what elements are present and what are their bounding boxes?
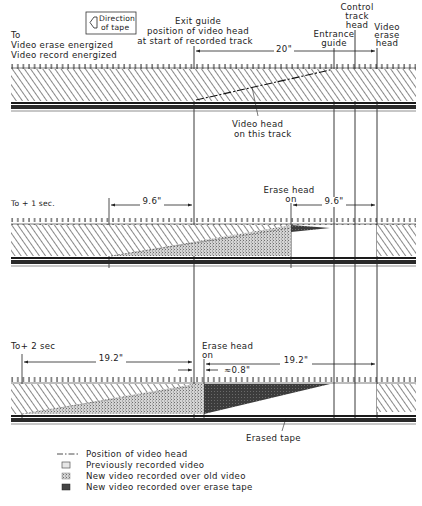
legend-label-0: Position of video head [86, 449, 187, 459]
control-track-label-3: head [346, 20, 369, 30]
t2-dim-small-label: ≈0.8" [224, 365, 250, 375]
legend: Position of video head Previously record… [57, 449, 253, 492]
tape-recording-diagram: Direction of tape To Video erase energiz… [0, 0, 422, 506]
t1-dim-left-label: 9.6" [143, 196, 162, 206]
video-head-callout-2: on this track [234, 129, 292, 139]
t2-dim-left-label: 19.2" [99, 353, 124, 363]
t1-previously-recorded-right [377, 225, 416, 256]
to-label: To [10, 30, 21, 40]
video-erase-head-label-3: head [376, 38, 399, 48]
legend-previously-recorded-swatch [62, 462, 70, 468]
direction-label-1: Direction [99, 14, 135, 23]
legend-label-3: New video recorded over erase tape [86, 482, 253, 492]
t1-dim-right-label: 9.6" [325, 196, 344, 206]
t2-erase-head-on-label: on [202, 350, 213, 360]
legend-new-over-old-swatch [62, 473, 70, 479]
exit-guide-start-label: at start of recorded track [137, 36, 253, 46]
dimension-20-label: 20" [276, 44, 292, 54]
exit-guide-label: Exit guide [175, 16, 221, 26]
video-erase-energized-label: Video erase energized [11, 40, 113, 50]
video-record-energized-label: Video record energized [11, 50, 117, 60]
control-track-band [11, 105, 416, 109]
erased-tape-label: Erased tape [246, 433, 301, 443]
t1-new-over-erase-region [291, 225, 330, 232]
t1-erase-head-on-label: on [285, 194, 296, 204]
t2-dim-right-label: 19.2" [284, 355, 309, 365]
t2-time-label: To+ 2 sec [10, 341, 55, 351]
direction-label-2: of tape [101, 23, 129, 32]
t2-previously-recorded-right [377, 384, 416, 412]
direction-of-tape-box: Direction of tape [86, 12, 136, 34]
legend-label-1: Previously recorded video [86, 460, 204, 470]
t1-time-label: To + 1 sec. [10, 199, 55, 208]
direction-arrow-icon [90, 17, 97, 28]
video-head-callout-1: Video head [232, 119, 283, 129]
t2-new-over-erase-region [204, 384, 330, 414]
legend-label-2: New video recorded over old video [86, 471, 246, 481]
entrance-guide-label-2: guide [321, 38, 347, 48]
legend-new-over-erase-swatch [62, 484, 70, 490]
exit-guide-position-label: position of video head [147, 26, 249, 36]
